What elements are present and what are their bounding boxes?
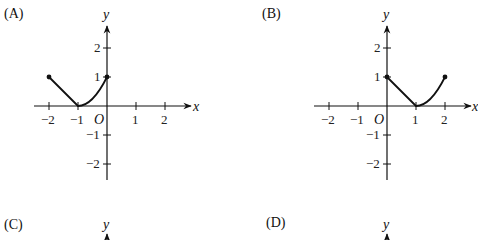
y-tick-label: −2 (86, 156, 100, 171)
origin-label: O (374, 112, 384, 127)
y-tick-label: −2 (366, 156, 380, 171)
endpoint-dot (105, 75, 110, 80)
origin-label: O (94, 112, 104, 127)
x-tick-label: −1 (350, 112, 364, 127)
y-axis-label: y (101, 7, 110, 22)
option-label-a: (A) (4, 6, 24, 22)
answer-choices-figure: (A) x y −2 −1 1 2 O 2 1 −1 −2 (0, 0, 478, 240)
x-tick-label: −1 (70, 112, 84, 127)
y-tick-label: 1 (374, 69, 381, 84)
graph-b: (B) x y −2 −1 1 2 O 2 1 −1 −2 (262, 6, 478, 180)
x-tick-label: 2 (161, 112, 168, 127)
y-tick-label: −1 (366, 127, 380, 142)
graph-a: (A) x y −2 −1 1 2 O 2 1 −1 −2 (4, 6, 200, 180)
endpoint-dot (385, 75, 390, 80)
x-axis-label: x (471, 99, 478, 114)
x-tick-label: 1 (132, 112, 139, 127)
option-label-b: (B) (262, 6, 281, 22)
y-tick-label: 2 (374, 40, 381, 55)
graph-c: (C) y (4, 217, 110, 240)
y-axis-label: y (101, 217, 110, 232)
x-tick-label: 1 (412, 112, 419, 127)
x-tick-label: −2 (41, 112, 55, 127)
y-tick-label: 1 (94, 69, 101, 84)
y-axis-label: y (381, 217, 390, 232)
y-tick-label: −1 (86, 127, 100, 142)
option-label-c: (C) (4, 217, 23, 233)
x-tick-label: −2 (321, 112, 335, 127)
option-label-d: (D) (266, 215, 286, 231)
x-axis-label: x (192, 99, 200, 114)
y-tick-label: 2 (94, 40, 101, 55)
y-axis-label: y (381, 7, 390, 22)
graph-d: (D) y (266, 215, 390, 240)
endpoint-dot (47, 75, 52, 80)
function-curve (387, 77, 445, 106)
endpoint-dot (443, 75, 448, 80)
x-tick-label: 2 (441, 112, 448, 127)
